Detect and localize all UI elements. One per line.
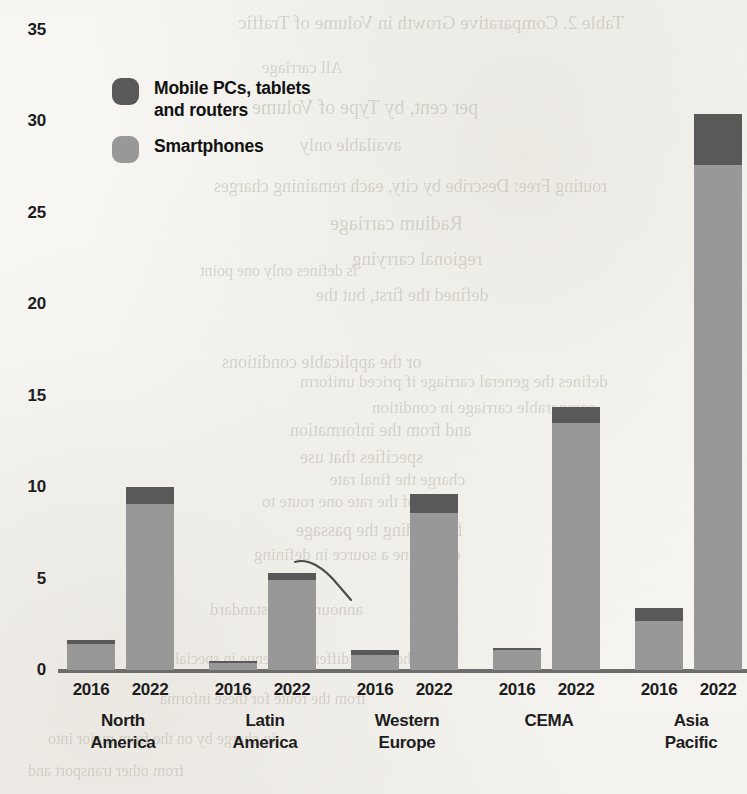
bar-group: 20162022AsiaPacific	[632, 30, 747, 670]
region-label-line: America	[64, 732, 182, 754]
x-axis-year-label: 2022	[257, 680, 327, 700]
region-label-line: America	[206, 732, 324, 754]
y-axis-tick-label: 15	[27, 386, 46, 406]
region-label-line: Europe	[348, 732, 466, 754]
bar-segment-smartphones	[126, 504, 174, 670]
legend-label: Mobile PCs, tablets and routers	[154, 78, 311, 122]
legend-item: Mobile PCs, tablets and routers	[112, 78, 311, 122]
y-axis-tick-label: 30	[27, 111, 46, 131]
stacked-bar	[552, 407, 600, 670]
region-label-line: Pacific	[632, 732, 747, 754]
x-axis-region-label: WesternEurope	[348, 710, 466, 754]
y-axis-tick-label: 10	[27, 477, 46, 497]
bar-segment-smartphones	[552, 423, 600, 670]
x-axis-year-label: 2022	[683, 680, 747, 700]
x-axis-region-label: AsiaPacific	[632, 710, 747, 754]
stacked-bar	[635, 608, 683, 670]
bar-segment-smartphones	[410, 513, 458, 670]
bar-segment-smartphones	[694, 165, 742, 670]
legend-color-swatch	[112, 136, 139, 163]
bar-group: 20162022CEMA	[490, 30, 608, 670]
stacked-bar	[67, 640, 115, 670]
y-axis-tick-label: 20	[27, 294, 46, 314]
region-label-line: CEMA	[490, 710, 608, 732]
y-axis-tick-label: 0	[37, 660, 46, 680]
stacked-bar	[694, 114, 742, 670]
stacked-bar	[126, 487, 174, 670]
stacked-bar	[410, 494, 458, 670]
y-axis-tick-label: 35	[27, 20, 46, 40]
region-label-line: North	[64, 710, 182, 732]
stacked-bar-chart: 05101520253035 20162022NorthAmerica20162…	[0, 0, 747, 794]
x-axis-year-label: 2022	[399, 680, 469, 700]
legend-color-swatch	[112, 78, 139, 105]
bar-segment-smartphones	[351, 655, 399, 670]
bar-segment-smartphones	[67, 644, 115, 670]
bar-segment-smartphones	[268, 580, 316, 670]
chart-legend: Mobile PCs, tablets and routersSmartphon…	[112, 78, 311, 177]
bar-segment-smartphones	[209, 663, 257, 670]
y-axis-tick-label: 5	[37, 569, 46, 589]
x-axis-region-label: NorthAmerica	[64, 710, 182, 754]
stacked-bar	[493, 648, 541, 670]
x-axis-region-label: LatinAmerica	[206, 710, 324, 754]
region-label-line: Latin	[206, 710, 324, 732]
bar-segment-smartphones	[493, 650, 541, 670]
stacked-bar	[268, 573, 316, 670]
x-axis-region-label: CEMA	[490, 710, 608, 732]
legend-item: Smartphones	[112, 136, 311, 163]
region-label-line: Asia	[632, 710, 747, 732]
stacked-bar	[209, 661, 257, 670]
x-axis-year-label: 2022	[115, 680, 185, 700]
region-label-line: Western	[348, 710, 466, 732]
legend-label: Smartphones	[154, 136, 264, 158]
stacked-bar	[351, 650, 399, 670]
x-axis-year-label: 2022	[541, 680, 611, 700]
y-axis-tick-label: 25	[27, 203, 46, 223]
bar-segment-smartphones	[635, 621, 683, 670]
bar-group: 20162022WesternEurope	[348, 30, 466, 670]
